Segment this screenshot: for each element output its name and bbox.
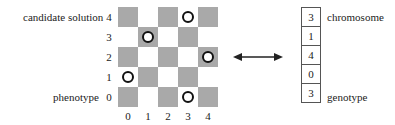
board-cell: [118, 27, 138, 47]
board-cell: [118, 67, 138, 87]
board-cell: [158, 87, 178, 107]
gene-cell: 0: [301, 64, 321, 84]
board-cell: [158, 67, 178, 87]
board-cell: [138, 27, 158, 47]
col-label-1: 1: [138, 110, 158, 122]
row-label-1: 1: [104, 71, 114, 83]
board-cell: [158, 27, 178, 47]
board-cell: [158, 47, 178, 67]
board-cell: [178, 67, 198, 87]
board-cell: [138, 67, 158, 87]
board-cell: [178, 27, 198, 47]
row-label-0: 0: [104, 91, 114, 103]
double-arrow-icon: [233, 52, 283, 62]
board-cell: [178, 47, 198, 67]
genotype-label: genotype: [327, 91, 367, 103]
chessboard: [118, 7, 218, 107]
row-label-2: 2: [104, 51, 114, 63]
gene-cell: 3: [301, 7, 321, 27]
col-label-0: 0: [118, 110, 138, 122]
row-label-3: 3: [104, 31, 114, 43]
board-cell: [118, 87, 138, 107]
queen-circle-icon: [142, 31, 154, 43]
chromosome-label: chromosome: [327, 11, 384, 23]
board-cell: [198, 67, 218, 87]
chromosome-array: 3 1 4 0 3: [301, 7, 321, 103]
board-cell: [118, 7, 138, 27]
board-cell: [138, 47, 158, 67]
col-label-2: 2: [158, 110, 178, 122]
board-cell: [198, 87, 218, 107]
col-label-4: 4: [198, 110, 218, 122]
board-cell: [198, 7, 218, 27]
candidate-solution-label: candidate solution: [23, 11, 103, 23]
board-cell: [138, 7, 158, 27]
queen-circle-icon: [202, 51, 214, 63]
board-cell: [138, 87, 158, 107]
board-cell: [198, 27, 218, 47]
board-cell: [178, 7, 198, 27]
queen-circle-icon: [182, 11, 194, 23]
phenotype-label: phenotype: [53, 91, 99, 103]
board-cell: [118, 47, 138, 67]
gene-cell: 1: [301, 26, 321, 46]
gene-cell: 3: [301, 83, 321, 103]
board-cell: [158, 7, 178, 27]
board-cell: [198, 47, 218, 67]
queen-circle-icon: [182, 91, 194, 103]
col-label-3: 3: [178, 110, 198, 122]
row-label-4: 4: [104, 11, 114, 23]
gene-cell: 4: [301, 45, 321, 65]
board-cell: [178, 87, 198, 107]
queen-circle-icon: [122, 71, 134, 83]
